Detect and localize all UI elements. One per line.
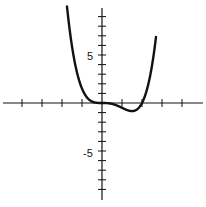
y-tick-label-neg5: -5 [83, 147, 93, 159]
function-curve [67, 7, 156, 112]
function-graph: 5 -5 [0, 0, 206, 207]
y-tick-label-5: 5 [87, 50, 93, 62]
